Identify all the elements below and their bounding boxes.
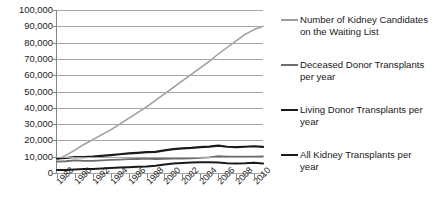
x-axis-tick xyxy=(75,174,76,178)
x-axis-tick xyxy=(120,174,121,178)
x-axis-tick xyxy=(164,174,165,178)
x-axis-labels: 1988199019921994199619982000200220042006… xyxy=(0,0,300,213)
legend-color-swatch xyxy=(281,19,298,21)
x-axis-tick xyxy=(227,174,228,178)
legend-entry[interactable]: Number of Kidney Candidates on the Waiti… xyxy=(281,14,432,37)
y-axis-tick xyxy=(53,108,57,109)
y-axis-tick xyxy=(53,43,57,44)
x-axis-tick xyxy=(236,174,237,178)
legend-entry[interactable]: Living Donor Transplants per year xyxy=(281,104,432,127)
x-axis-tick xyxy=(138,174,139,178)
x-axis-tick xyxy=(200,174,201,178)
x-axis-tick xyxy=(263,174,264,178)
x-axis-tick xyxy=(173,174,174,178)
x-axis-tick xyxy=(191,174,192,178)
x-axis-tick xyxy=(57,174,58,178)
y-axis-tick xyxy=(53,92,57,93)
x-axis-tick xyxy=(129,174,130,178)
x-axis-tick xyxy=(182,174,183,178)
legend-label: Living Donor Transplants per year xyxy=(300,104,432,127)
legend-color-swatch xyxy=(281,154,298,156)
x-axis-tick xyxy=(209,174,210,178)
legend-color-swatch xyxy=(281,109,298,111)
y-axis-tick xyxy=(53,75,57,76)
x-axis-tick xyxy=(84,174,85,178)
x-axis-tick xyxy=(102,174,103,178)
legend-color-swatch xyxy=(281,64,298,66)
x-axis-tick xyxy=(156,174,157,178)
y-axis-tick xyxy=(53,10,57,11)
y-axis-tick xyxy=(53,157,57,158)
y-axis-tick xyxy=(53,59,57,60)
y-axis-tick xyxy=(53,140,57,141)
y-axis-tick xyxy=(53,124,57,125)
x-axis-tick xyxy=(147,174,148,178)
legend-entry[interactable]: Deceased Donor Transplants per year xyxy=(281,59,432,82)
legend-label: All Kidney Transplants per year xyxy=(300,149,432,172)
legend-label: Deceased Donor Transplants per year xyxy=(300,59,432,82)
x-axis-tick xyxy=(93,174,94,178)
x-axis-tick xyxy=(254,174,255,178)
x-axis-tick xyxy=(111,174,112,178)
y-axis-tick xyxy=(53,26,57,27)
x-axis-tick xyxy=(218,174,219,178)
legend-entry[interactable]: All Kidney Transplants per year xyxy=(281,149,432,172)
kidney-transplant-line-chart: 100,00090,00080,00070,00060,00050,00040,… xyxy=(0,0,434,213)
x-axis-tick xyxy=(245,174,246,178)
legend-label: Number of Kidney Candidates on the Waiti… xyxy=(300,14,432,37)
x-axis-tick xyxy=(66,174,67,178)
